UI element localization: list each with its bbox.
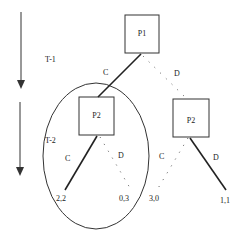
edge-label-left-c: C (65, 155, 70, 163)
time-arrow-1 (17, 12, 25, 89)
edge-left-d (100, 137, 130, 188)
time-label-t2: T-2 (45, 137, 56, 145)
edge-right-c (157, 138, 188, 190)
edge-left-c (65, 136, 97, 190)
payoff-dd: 1,1 (220, 197, 230, 205)
time-arrow-2 (16, 102, 24, 176)
edge-label-root-d: D (174, 70, 180, 78)
edge-right-d (190, 138, 226, 190)
node-label-left: P2 (79, 112, 114, 120)
edge-label-left-d: D (118, 152, 124, 160)
edge-label-right-c: C (159, 153, 164, 161)
payoff-cd: 0,3 (119, 195, 129, 203)
payoff-dc: 3,0 (149, 195, 159, 203)
node-label-root: P1 (125, 30, 159, 38)
edge-label-root-c: C (103, 69, 108, 77)
payoff-cc: 2,2 (56, 195, 66, 203)
edge-label-right-d: D (213, 154, 219, 162)
node-label-right: P2 (173, 117, 209, 125)
time-label-t1: T-1 (45, 56, 56, 64)
